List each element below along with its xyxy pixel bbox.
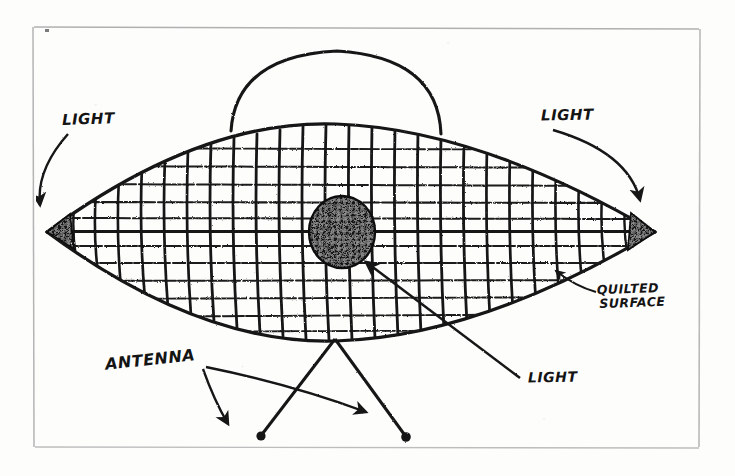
central-light-dome (309, 196, 375, 268)
label-quilted-line2: SURFACE (599, 295, 666, 310)
label-light-left: LIGHT (62, 111, 115, 129)
label-quilted-surface: QUILTED SURFACE (597, 281, 666, 311)
sketch-page: LIGHT LIGHT LIGHT ANTENNA QUILTED SURFAC… (0, 0, 735, 476)
label-light-right: LIGHT (541, 108, 594, 125)
label-light-center: LIGHT (528, 370, 578, 386)
ufo-sketch-canvas (0, 0, 735, 476)
